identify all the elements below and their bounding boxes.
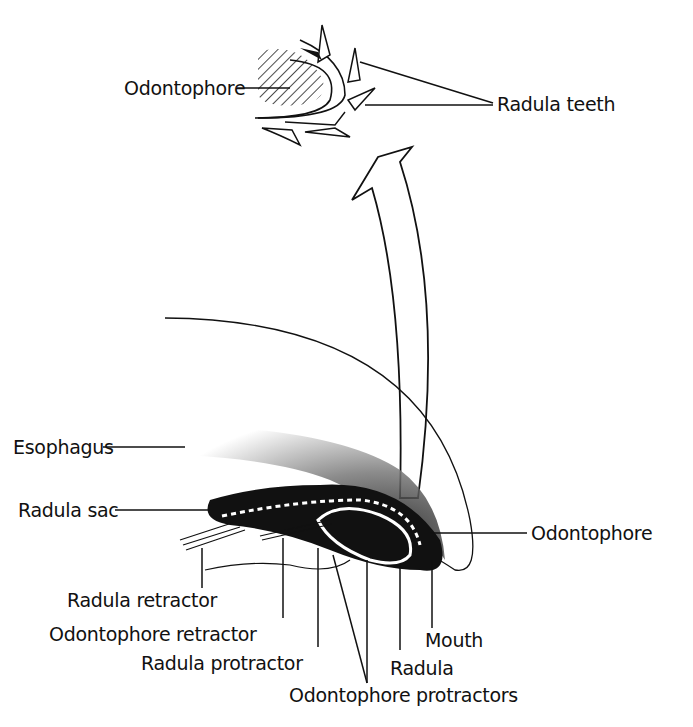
label-radula: Radula [390, 659, 454, 678]
label-esophagus: Esophagus [13, 438, 114, 457]
label-odontophore-right: Odontophore [531, 524, 652, 543]
arrow-icon [352, 147, 428, 498]
label-radula-sac: Radula sac [18, 501, 118, 520]
label-odontophore-protractors: Odontophore protractors [289, 686, 518, 705]
label-radula-teeth: Radula teeth [497, 95, 615, 114]
label-mouth: Mouth [425, 631, 483, 650]
label-radula-protractor: Radula protractor [141, 654, 303, 673]
label-odontophore-retractor: Odontophore retractor [49, 625, 257, 644]
label-radula-retractor: Radula retractor [67, 591, 217, 610]
label-odontophore-top: Odontophore [124, 79, 245, 98]
odontophore-detail [255, 25, 375, 145]
